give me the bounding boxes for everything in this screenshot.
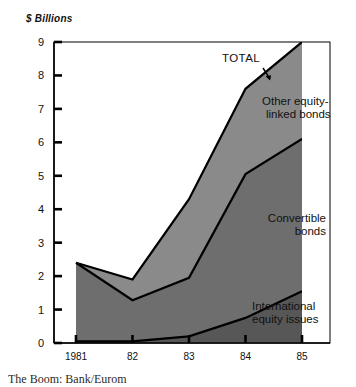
label-convertible-bonds-line1: Convertible <box>248 212 326 225</box>
label-international-equity-issues-line1: International <box>252 300 315 313</box>
y-axis-tick-label-8: 8 <box>28 70 44 81</box>
y-axis-tick-label-0: 0 <box>28 338 44 349</box>
y-axis-tick-label-6: 6 <box>28 137 44 148</box>
page-caption: The Boom: Bank/Eurom <box>8 372 198 385</box>
x-axis-tick-label-83: 83 <box>183 352 194 362</box>
y-axis-tick-label-7: 7 <box>28 104 44 115</box>
y-axis-tick-label-5: 5 <box>28 171 44 182</box>
x-axis-tick-label-84: 84 <box>240 352 251 362</box>
y-axis-tick-label-3: 3 <box>28 238 44 249</box>
area-chart-plot <box>0 0 356 387</box>
label-international-equity-issues-line2: equity issues <box>252 313 318 326</box>
y-axis-tick-label-1: 1 <box>28 305 44 316</box>
x-axis-tick-label-85: 85 <box>296 352 307 362</box>
y-axis-tick-label-4: 4 <box>28 204 44 215</box>
label-convertible-bonds-line2: bonds <box>248 225 326 238</box>
x-axis-tick-label-82: 82 <box>127 352 138 362</box>
y-axis-tick-label-9: 9 <box>28 37 44 48</box>
label-total: TOTAL <box>222 52 260 65</box>
label-other-equity-linked-bonds-line2: linked bonds <box>266 108 331 121</box>
y-axis-tick-label-2: 2 <box>28 271 44 282</box>
x-axis-tick-label-1981: 1981 <box>65 352 87 362</box>
label-other-equity-linked-bonds-line1: Other equity- <box>262 95 328 108</box>
chart-container: $ Billions 0123456789 1981828 <box>0 0 356 387</box>
